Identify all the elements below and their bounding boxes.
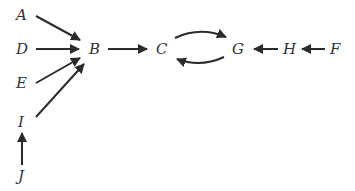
node-c: C <box>156 40 168 58</box>
edge-c-to-g <box>175 32 226 38</box>
node-f: F <box>329 40 341 58</box>
node-i: I <box>17 113 25 131</box>
edge-a-to-b <box>36 16 80 40</box>
node-j: J <box>15 167 25 185</box>
node-g: G <box>232 40 244 58</box>
node-b: B <box>88 40 100 58</box>
node-d: D <box>15 40 28 58</box>
node-e: E <box>15 74 27 92</box>
edge-i-to-b <box>36 64 84 117</box>
edge-g-to-c <box>177 57 224 63</box>
edge-e-to-b <box>36 58 80 83</box>
directed-graph-diagram: A D E I J B C G H F <box>0 0 355 191</box>
node-h: H <box>282 40 297 58</box>
edges <box>22 16 325 165</box>
node-a: A <box>14 6 27 24</box>
nodes: A D E I J B C G H F <box>14 6 341 185</box>
